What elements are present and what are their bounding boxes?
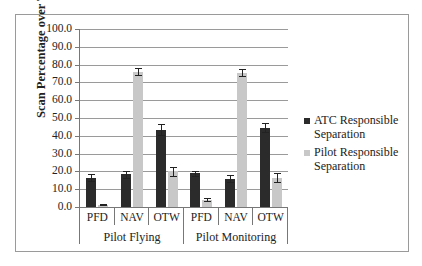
gridline <box>80 189 288 190</box>
error-cap <box>227 175 234 176</box>
gridline <box>80 118 288 119</box>
error-cap <box>100 205 107 206</box>
bar-pilot-1 <box>133 72 143 207</box>
y-tick-label: 60.0 <box>32 93 72 105</box>
error-cap <box>170 167 177 168</box>
error-cap <box>274 182 281 183</box>
y-tick-label: 100.0 <box>32 22 72 34</box>
x-category-label: PFD <box>80 211 115 223</box>
x-category-label: OTW <box>149 211 184 223</box>
error-cap <box>158 124 165 125</box>
error-cap <box>262 132 269 133</box>
error-cap <box>135 75 142 76</box>
error-bar <box>126 171 127 178</box>
x-axis-baseline <box>80 207 288 208</box>
error-cap <box>204 198 211 199</box>
gridline <box>80 47 288 48</box>
error-bar <box>161 124 162 135</box>
error-cap <box>135 68 142 69</box>
gridline <box>80 100 288 101</box>
gridline <box>80 82 288 83</box>
x-category-label: NAV <box>115 211 150 223</box>
legend-label-atc: ATC Responsible Separation <box>314 113 398 141</box>
y-tick-label: 90.0 <box>32 40 72 52</box>
y-tick-label: 20.0 <box>32 164 72 176</box>
y-tick-label: 50.0 <box>32 111 72 123</box>
x-category-label: OTW <box>253 211 288 223</box>
bar-atc-2 <box>156 130 166 207</box>
error-cap <box>123 171 130 172</box>
error-cap <box>192 176 199 177</box>
error-bar <box>138 68 139 75</box>
x-group-label: Pilot Flying <box>80 230 184 245</box>
error-cap <box>204 201 211 202</box>
error-cap <box>88 174 95 175</box>
error-bar <box>173 167 174 176</box>
x-category-label: NAV <box>219 211 254 223</box>
legend-label-pilot: Pilot Responsible Separation <box>314 145 398 173</box>
gridline <box>80 171 288 172</box>
error-bar <box>91 174 92 181</box>
bar-atc-1 <box>121 174 131 207</box>
error-bar <box>242 69 243 76</box>
gridline <box>80 154 288 155</box>
x-group-label: Pilot Monitoring <box>184 230 288 245</box>
legend-swatch-atc <box>304 118 310 124</box>
error-cap <box>262 123 269 124</box>
y-tick-label: 40.0 <box>32 129 72 141</box>
gridline <box>80 136 288 137</box>
bar-atc-3 <box>190 173 200 207</box>
error-cap <box>274 173 281 174</box>
y-tick-label: 0.0 <box>32 200 72 212</box>
error-cap <box>227 182 234 183</box>
error-cap <box>88 181 95 182</box>
error-cap <box>170 176 177 177</box>
gridline <box>80 29 288 30</box>
bar-atc-4 <box>225 179 235 207</box>
bar-atc-5 <box>260 128 270 207</box>
error-bar <box>277 173 278 182</box>
y-tick-label: 80.0 <box>32 58 72 70</box>
error-cap <box>123 178 130 179</box>
legend: ATC Responsible Separation Pilot Respons… <box>304 113 412 177</box>
error-bar <box>265 123 266 132</box>
bar-pilot-4 <box>237 73 247 207</box>
error-cap <box>158 135 165 136</box>
y-tick-label: 70.0 <box>32 75 72 87</box>
y-tick-label: 30.0 <box>32 147 72 159</box>
error-cap <box>239 69 246 70</box>
error-cap <box>239 76 246 77</box>
x-category-label: PFD <box>184 211 219 223</box>
legend-item-atc: ATC Responsible Separation <box>304 113 412 141</box>
error-cap <box>192 171 199 172</box>
y-tick-label: 10.0 <box>32 182 72 194</box>
gridline <box>80 65 288 66</box>
legend-item-pilot: Pilot Responsible Separation <box>304 145 412 173</box>
legend-swatch-pilot <box>304 150 310 156</box>
